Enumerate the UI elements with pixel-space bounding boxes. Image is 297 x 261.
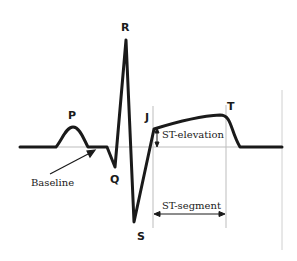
label-baseline: Baseline (31, 177, 74, 188)
ecg-diagram: R P Q S J T Baseline ST-elevation ST-seg… (0, 0, 297, 261)
label-s: S (137, 230, 145, 243)
label-st-segment: ST-segment (162, 200, 221, 211)
st-elevation-arrow (155, 128, 159, 147)
baseline-pointer-arrow (50, 150, 95, 174)
label-t: T (227, 100, 235, 113)
ecg-trace (20, 40, 282, 222)
label-r: R (121, 21, 130, 34)
label-j: J (144, 111, 149, 124)
label-st-elevation: ST-elevation (162, 129, 224, 140)
label-q: Q (110, 173, 119, 186)
label-p: P (68, 109, 76, 122)
st-segment-arrow (154, 212, 225, 217)
